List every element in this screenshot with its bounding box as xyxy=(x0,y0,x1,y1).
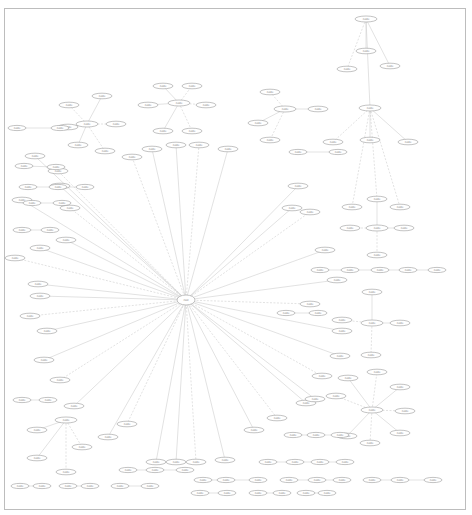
graph-node[interactable]: node xyxy=(274,106,296,112)
graph-node[interactable]: node xyxy=(51,125,69,130)
graph-node[interactable]: node xyxy=(166,142,186,148)
graph-node[interactable]: node xyxy=(153,128,173,134)
graph-node[interactable]: node xyxy=(153,83,173,89)
graph-node[interactable]: node xyxy=(138,102,158,108)
graph-node[interactable]: node xyxy=(64,403,84,409)
graph-node[interactable]: node xyxy=(194,477,212,482)
graph-node[interactable]: node xyxy=(361,407,383,413)
graph-node[interactable]: node xyxy=(267,415,287,421)
graph-node[interactable]: node xyxy=(331,432,349,437)
graph-node[interactable]: node xyxy=(182,83,202,89)
graph-node[interactable]: node xyxy=(355,16,377,22)
graph-node[interactable]: node xyxy=(189,142,209,148)
graph-node[interactable]: node xyxy=(332,328,352,334)
graph-node[interactable]: node xyxy=(72,444,92,450)
graph-node[interactable]: node xyxy=(11,483,29,488)
graph-node[interactable]: node xyxy=(50,377,70,383)
graph-node[interactable]: node xyxy=(330,353,350,359)
graph-node[interactable]: node xyxy=(333,477,351,482)
graph-node[interactable]: node xyxy=(361,352,381,358)
graph-node[interactable]: node xyxy=(273,490,291,495)
graph-node[interactable]: node xyxy=(361,320,383,326)
graph-node[interactable]: node xyxy=(34,357,54,363)
graph-node[interactable]: node xyxy=(395,408,415,414)
graph-node[interactable]: node xyxy=(307,432,325,437)
graph-node[interactable]: node xyxy=(37,328,57,334)
graph-node[interactable]: node xyxy=(359,105,381,111)
graph-node[interactable]: node xyxy=(318,490,336,495)
graph-node[interactable]: node xyxy=(309,310,327,315)
graph-node[interactable]: node xyxy=(337,66,357,72)
graph-node[interactable]: node xyxy=(122,154,142,160)
graph-node[interactable]: node xyxy=(315,247,335,253)
graph-node[interactable]: node xyxy=(338,375,358,381)
graph-node[interactable]: node xyxy=(20,313,40,319)
graph-node[interactable]: node xyxy=(399,267,417,272)
graph-node[interactable]: node xyxy=(340,225,360,231)
graph-node[interactable]: node xyxy=(95,148,115,154)
graph-node[interactable]: node xyxy=(367,196,387,202)
graph-node[interactable]: node xyxy=(218,146,238,152)
graph-node[interactable]: node xyxy=(146,467,164,472)
graph-node[interactable]: node xyxy=(111,483,129,488)
graph-node[interactable]: node xyxy=(308,477,326,482)
graph-node[interactable]: node xyxy=(53,200,71,205)
graph-node[interactable]: node xyxy=(49,184,67,189)
graph-node[interactable]: node xyxy=(329,149,347,154)
graph-node[interactable]: node xyxy=(390,204,410,210)
graph-node[interactable]: node xyxy=(30,245,50,251)
graph-node[interactable]: node xyxy=(47,164,65,169)
graph-node[interactable]: node xyxy=(98,434,118,440)
graph-node[interactable]: node xyxy=(196,102,216,108)
graph-node[interactable]: node xyxy=(398,139,418,145)
graph-node[interactable]: node xyxy=(217,477,235,482)
graph-node[interactable]: node xyxy=(390,430,410,436)
graph-node[interactable]: node xyxy=(25,153,45,159)
graph-node[interactable]: node xyxy=(390,320,410,326)
graph-node[interactable]: node xyxy=(186,459,206,465)
graph-node[interactable]: node xyxy=(56,469,76,475)
graph-node[interactable]: node xyxy=(336,459,354,464)
graph-node[interactable]: node xyxy=(259,459,277,464)
graph-node[interactable]: node xyxy=(68,142,88,148)
graph-node[interactable]: node xyxy=(424,477,442,482)
graph-node[interactable]: node xyxy=(244,427,264,433)
graph-node[interactable]: node xyxy=(390,384,410,390)
graph-node[interactable]: node xyxy=(308,106,328,112)
graph-node[interactable]: node xyxy=(363,477,381,482)
graph-node[interactable]: node xyxy=(326,393,346,399)
graph-node[interactable]: node xyxy=(166,459,186,465)
graph-node[interactable]: node xyxy=(249,477,267,482)
graph-node[interactable]: node xyxy=(13,397,31,402)
graph-node[interactable]: node xyxy=(288,183,308,189)
graph-node[interactable]: node xyxy=(323,139,343,145)
graph-node[interactable]: node xyxy=(23,200,41,205)
graph-node[interactable]: node xyxy=(305,396,325,402)
graph-node[interactable]: node xyxy=(119,467,137,472)
graph-node[interactable]: node xyxy=(106,121,126,127)
graph-node[interactable]: node xyxy=(260,137,280,143)
graph-node[interactable]: node xyxy=(311,459,329,464)
graph-node[interactable]: node xyxy=(15,163,33,168)
graph-node[interactable]: node xyxy=(142,146,162,152)
graph-node[interactable]: node xyxy=(289,149,307,154)
graph-node[interactable]: node xyxy=(176,467,194,472)
graph-node[interactable]: node xyxy=(284,432,302,437)
graph-node[interactable]: node xyxy=(28,281,48,287)
graph-node[interactable]: node xyxy=(286,459,304,464)
graph-node[interactable]: node xyxy=(297,490,315,495)
graph-node[interactable]: node xyxy=(327,277,347,283)
graph-node[interactable]: node xyxy=(117,421,137,427)
graph-node[interactable]: node xyxy=(19,184,37,189)
graph-node[interactable]: node xyxy=(60,205,80,211)
graph-node[interactable]: node xyxy=(342,204,362,210)
graph-node[interactable]: node xyxy=(30,293,50,299)
graph-node[interactable]: node xyxy=(191,490,209,495)
graph-node[interactable]: node xyxy=(300,301,320,307)
graph-node[interactable]: node xyxy=(13,227,31,232)
graph-node[interactable]: node xyxy=(360,137,380,143)
graph-node[interactable]: node xyxy=(27,427,47,433)
graph-node[interactable]: node xyxy=(33,483,51,488)
graph-node[interactable]: node xyxy=(282,205,302,211)
graph-node[interactable]: node xyxy=(218,490,236,495)
